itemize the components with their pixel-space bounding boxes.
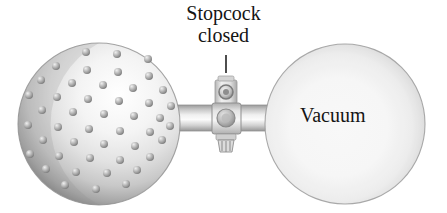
vacuum-label: Vacuum [300, 105, 366, 127]
stopcock-label-line2: closed [0, 25, 447, 47]
stopcock-label-line1: Stopcock [0, 3, 447, 25]
gas-expansion-figure: Stopcock closed Vacuum [0, 0, 447, 213]
stopcock-label: Stopcock closed [0, 3, 447, 46]
left-gas-bulb [18, 43, 180, 205]
stopcock-valve[interactable] [212, 76, 241, 152]
